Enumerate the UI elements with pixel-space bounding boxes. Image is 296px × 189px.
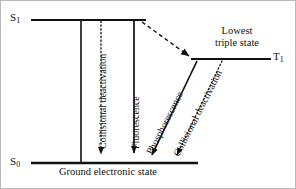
lowest-triple-state-caption: Lowest triple state [201,25,273,50]
transition-intersystem-crossing [142,22,189,56]
state-label-s1-subscript: 1 [16,16,20,25]
lowest-triple-state-line1: Lowest [201,25,273,37]
ground-state-caption: Ground electronic state [59,166,157,177]
jablonski-diagram-figure: S1 S0 T1 Ground electronic state Lowest … [0,0,296,189]
state-label-s0: S0 [10,156,20,168]
state-label-s1: S1 [10,12,20,24]
state-label-t1-text: T [273,50,280,62]
state-label-t1: T1 [273,51,284,63]
lowest-triple-state-line2: triple state [201,37,273,49]
transition-label-collisional-deactivation-singlet: Collisional deactivation [97,54,108,149]
state-label-s0-subscript: 0 [16,160,20,169]
state-label-t1-subscript: 1 [280,55,284,64]
transition-label-fluorescence: Fluorescence [130,96,141,149]
